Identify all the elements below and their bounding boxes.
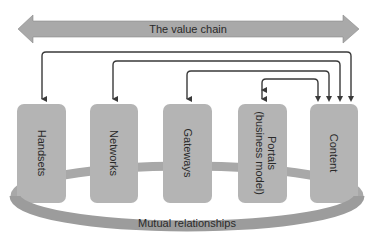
box-gateways: Gateways — [163, 104, 212, 203]
box-portals: Portals (business model) — [238, 104, 287, 203]
value-chain-diagram: The value chain Handsets Networks Gatewa… — [0, 0, 375, 242]
portals-sublabel: (business model) — [254, 111, 266, 195]
arrowheads — [315, 96, 354, 102]
content-label: Content — [328, 134, 340, 173]
box-networks: Networks — [90, 104, 138, 203]
value-chain-label: The value chain — [149, 23, 227, 35]
arrow-content-to-networks — [113, 61, 340, 99]
networks-label: Networks — [108, 130, 120, 176]
value-chain-banner: The value chain — [18, 15, 359, 43]
portals-label: Portals — [266, 136, 278, 171]
handsets-label: Handsets — [36, 130, 48, 177]
box-handsets: Handsets — [17, 104, 66, 203]
arrow-content-to-gateways — [187, 71, 329, 99]
connector-arrows — [42, 52, 351, 99]
gateways-label: Gateways — [182, 129, 194, 178]
arrow-portals-content — [262, 79, 318, 99]
box-content: Content — [310, 104, 358, 203]
arrow-content-to-handsets — [42, 52, 351, 99]
mutual-relationships-label: Mutual relationships — [138, 217, 236, 229]
